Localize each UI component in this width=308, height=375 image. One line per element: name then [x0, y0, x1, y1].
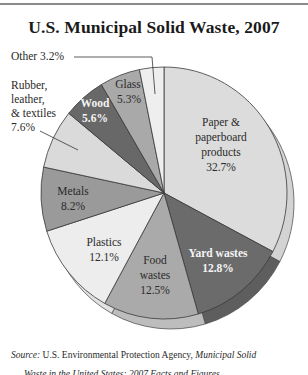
svg-text:8.2%: 8.2%: [61, 200, 85, 212]
svg-text:32.7%: 32.7%: [206, 161, 236, 173]
svg-text:Metals: Metals: [57, 185, 89, 197]
source-note-line2: Waste in the United States: 2007 Facts a…: [24, 369, 304, 375]
rubber-label-line4: 7.6%: [11, 120, 56, 134]
rubber-label-line2: leather,: [11, 92, 56, 106]
svg-text:Wood: Wood: [81, 97, 110, 109]
rubber-label: Rubber, leather, & textiles 7.6%: [11, 78, 56, 134]
svg-text:5.6%: 5.6%: [82, 112, 108, 124]
svg-text:5.3%: 5.3%: [117, 93, 141, 105]
svg-text:12.8%: 12.8%: [202, 262, 234, 274]
food-label: Food wastes 12.5%: [140, 254, 171, 296]
svg-text:Glass: Glass: [115, 78, 141, 90]
svg-text:Food: Food: [143, 254, 167, 266]
svg-text:paperboard: paperboard: [195, 131, 247, 144]
source-label: Source:: [11, 350, 40, 360]
rubber-label-line1: Rubber,: [11, 78, 56, 92]
svg-text:wastes: wastes: [140, 269, 171, 281]
svg-text:Paper &: Paper &: [202, 116, 240, 129]
svg-text:Plastics: Plastics: [86, 236, 122, 248]
svg-text:12.5%: 12.5%: [140, 284, 170, 296]
source-title: Municipal Solid: [195, 350, 256, 360]
svg-text:products: products: [201, 146, 241, 159]
other-label: Other 3.2%: [11, 49, 64, 63]
source-text: U.S. Environmental Protection Agency,: [40, 350, 195, 360]
svg-text:Yard wastes: Yard wastes: [188, 247, 248, 259]
source-note: Source: U.S. Environmental Protection Ag…: [11, 350, 308, 360]
svg-text:12.1%: 12.1%: [89, 251, 119, 263]
rubber-label-line3: & textiles: [11, 106, 56, 120]
